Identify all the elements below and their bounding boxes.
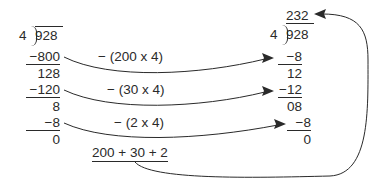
arrowhead-step2-icon — [262, 86, 274, 96]
arrows-layer — [0, 0, 385, 180]
arrow-sum-to-quotient — [135, 14, 368, 177]
arrow-step2 — [64, 90, 265, 105]
arrow-step1 — [64, 57, 265, 73]
arrow-step3 — [64, 123, 278, 138]
arrowhead-step3-icon — [274, 119, 286, 129]
arrowhead-step1-icon — [262, 53, 274, 63]
